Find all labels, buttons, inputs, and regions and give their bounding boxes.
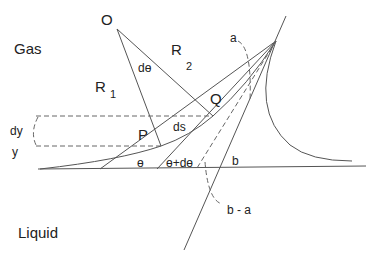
interface-profile-curve xyxy=(40,41,276,169)
dashed-tangent xyxy=(197,41,276,168)
r2-subscript: 2 xyxy=(186,60,192,72)
right-profile-curve xyxy=(266,41,352,161)
point-p-label: P xyxy=(138,126,148,143)
y-label: y xyxy=(12,145,18,159)
point-q-label: Q xyxy=(210,90,222,107)
theta-label: ө xyxy=(137,156,144,170)
gas-label: Gas xyxy=(14,40,42,57)
theta-plus-d-theta-label: ө+dө xyxy=(166,156,193,170)
radius-r2-line xyxy=(117,29,213,116)
meniscus-diagram: Gas Liquid O P Q R 1 R 2 dө ds dy y ө ө+… xyxy=(0,0,371,258)
dy-label: dy xyxy=(10,124,23,138)
r1-subscript: 1 xyxy=(110,88,116,100)
d-theta-label: dө xyxy=(138,61,152,75)
b-minus-a-label: b - a xyxy=(227,203,251,217)
b-label: b xyxy=(232,154,239,168)
a-label: a xyxy=(230,31,237,45)
ds-label: ds xyxy=(173,120,186,134)
baseline xyxy=(38,166,366,169)
point-o-label: O xyxy=(101,11,113,28)
liquid-label: Liquid xyxy=(18,224,58,241)
r2-label: R xyxy=(171,41,182,58)
dy-brace xyxy=(33,117,38,145)
r1-label: R xyxy=(95,78,106,95)
